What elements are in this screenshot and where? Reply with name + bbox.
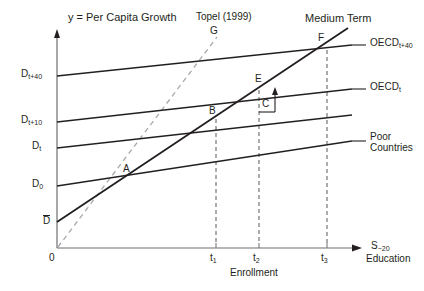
axes-group — [54, 29, 362, 252]
y-tick-label-dt10: Dt+10 — [21, 115, 42, 126]
y-tick-label-dt: Dt — [32, 141, 41, 152]
line-oecd-t40 — [57, 45, 352, 76]
point-label-b: B — [209, 106, 216, 117]
point-label-c: C — [262, 99, 269, 110]
figure-canvas: y = Per Capita Growth Topel (1999) G Med… — [0, 0, 424, 291]
y-tick-sub: t — [39, 145, 41, 152]
y-axis-arrowhead — [54, 29, 60, 38]
x-axis-arrowhead — [352, 245, 362, 252]
oecd-t40-label-main: OECD — [370, 37, 399, 48]
x-tick-label-t1: t1 — [210, 253, 217, 264]
y-tick-label-d0: D0 — [32, 179, 43, 190]
topel-label: Topel (1999) — [196, 12, 252, 23]
oecd-t-label-sub: t — [399, 86, 401, 93]
y-tick-sub: 0 — [39, 183, 43, 190]
origin-label: 0 — [49, 253, 55, 264]
poor-countries-line1: Poor — [370, 132, 413, 143]
poor-countries-line2: Countries — [370, 143, 413, 154]
medium-term-label: Medium Term — [305, 13, 371, 25]
x-tick-label-t3: t3 — [321, 253, 328, 264]
x-axis-title-s: S−20 — [371, 241, 390, 252]
oecd-t-label-main: OECD — [370, 81, 399, 92]
point-label-a: A — [123, 164, 130, 175]
x-axis-title-enrollment: Enrollment — [230, 268, 278, 279]
x-tick-sub: 1 — [213, 257, 217, 264]
topel-dashed-line — [58, 37, 217, 247]
point-label-g: G — [210, 26, 218, 37]
point-label-f: F — [318, 33, 324, 44]
y-tick-sub: t+10 — [28, 119, 42, 126]
diagram-svg — [0, 0, 424, 291]
y-axis-title: y = Per Capita Growth — [68, 12, 177, 24]
x-axis-title-main: S — [371, 240, 378, 251]
x-tick-marks — [216, 243, 327, 248]
oecd-t-label: OECDt — [370, 82, 401, 93]
line-poor-countries — [57, 141, 352, 186]
x-axis-title-education: Education — [366, 254, 410, 265]
line-dt10 — [57, 89, 352, 122]
point-label-e: E — [255, 74, 262, 85]
y-tick-sub: t+40 — [28, 73, 42, 80]
label-leaders-group — [352, 45, 366, 141]
schedule-lines-group — [57, 45, 352, 186]
x-tick-sub: 3 — [324, 257, 328, 264]
x-tick-sub: 2 — [256, 257, 260, 264]
x-axis-title-sub: −20 — [378, 245, 390, 252]
y-tick-label-dt40: Dt+40 — [21, 69, 42, 80]
poor-countries-label: Poor Countries — [370, 132, 413, 153]
oecd-t40-label: OECDt+40 — [370, 38, 413, 49]
x-tick-label-t2: t2 — [253, 253, 260, 264]
y-tick-main-overbar: D — [43, 215, 50, 226]
line-oecd-t — [57, 115, 352, 148]
y-tick-label-dbar: D — [43, 215, 50, 227]
oecd-t40-label-sub: t+40 — [399, 42, 413, 49]
